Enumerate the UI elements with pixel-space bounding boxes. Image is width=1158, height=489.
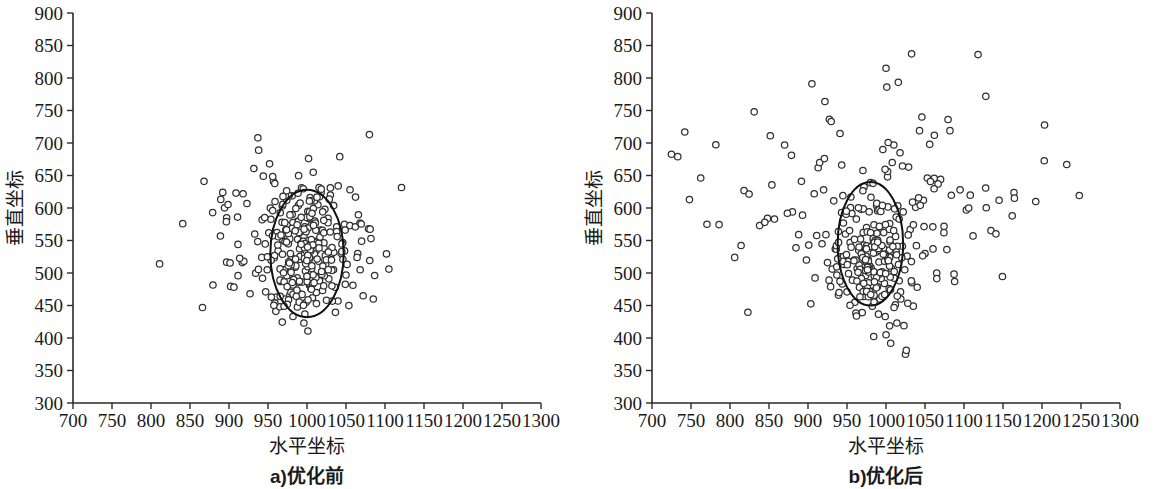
scatter-point	[837, 130, 843, 136]
y-tick-label: 450	[614, 295, 643, 316]
y-tick-label: 650	[614, 165, 643, 186]
scatter-point	[231, 284, 237, 290]
scatter-point	[799, 212, 805, 218]
scatter-point	[278, 232, 284, 238]
scatter-point	[771, 216, 777, 222]
scatter-point	[346, 302, 352, 308]
x-tick-label: 750	[677, 410, 706, 431]
x-tick-label: 700	[638, 410, 667, 431]
scatter-point	[1076, 192, 1082, 198]
scatter-point	[887, 340, 893, 346]
scatter-point	[893, 252, 899, 258]
scatter-point	[321, 217, 327, 223]
scatter-point	[866, 209, 872, 215]
scatter-point	[813, 232, 819, 238]
scatter-point	[808, 301, 814, 307]
scatter-point	[288, 269, 294, 275]
x-tick-label: 1300	[522, 410, 560, 431]
scatter-point	[983, 93, 989, 99]
scatter-point	[894, 293, 900, 299]
scatter-point	[355, 212, 361, 218]
scatter-point	[910, 222, 916, 228]
scatter-point	[874, 230, 880, 236]
scatter-point	[283, 188, 289, 194]
scatter-point	[251, 165, 257, 171]
scatter-point	[905, 300, 911, 306]
scatter-point	[304, 244, 310, 250]
scatter-point	[827, 283, 833, 289]
scatter-point	[944, 246, 950, 252]
y-axis-title: 垂直坐标	[584, 170, 605, 246]
scatter-point	[855, 269, 861, 275]
plot-area-b: 3003504004505005506006507007508008509007…	[579, 0, 1158, 489]
scatter-point	[882, 270, 888, 276]
scatter-point	[837, 278, 843, 284]
scatter-point	[861, 280, 867, 286]
x-tick-label: 1200	[1023, 410, 1061, 431]
scatter-point	[798, 178, 804, 184]
scatter-point	[880, 146, 886, 152]
scatter-point	[217, 233, 223, 239]
x-tick-label: 800	[137, 410, 166, 431]
scatter-point	[905, 164, 911, 170]
scatter-point	[894, 320, 900, 326]
scatter-point	[965, 205, 971, 211]
scatter-point	[209, 209, 215, 215]
scatter-point	[781, 142, 787, 148]
scatter-point	[915, 195, 921, 201]
scatter-point	[784, 210, 790, 216]
y-tick-label: 400	[35, 328, 64, 349]
scatter-point	[853, 313, 859, 319]
scatter-point	[370, 296, 376, 302]
scatter-point	[917, 202, 923, 208]
scatter-point	[240, 191, 246, 197]
scatter-point	[269, 207, 275, 213]
scatter-point	[903, 347, 909, 353]
scatter-point	[283, 239, 289, 245]
scatter-point	[321, 230, 327, 236]
scatter-point	[320, 209, 326, 215]
scatter-point	[843, 251, 849, 257]
scatter-point	[905, 232, 911, 238]
scatter-point	[882, 221, 888, 227]
y-tick-label: 700	[35, 133, 64, 154]
scatter-point	[371, 272, 377, 278]
scatter-point	[295, 172, 301, 178]
x-tick-label: 1050	[327, 410, 365, 431]
scatter-point	[901, 322, 907, 328]
scatter-point	[247, 291, 253, 297]
scatter-point	[275, 242, 281, 248]
x-tick-label: 850	[755, 410, 784, 431]
y-tick-label: 900	[35, 3, 64, 24]
y-tick-label: 350	[35, 360, 64, 381]
scatter-point	[327, 185, 333, 191]
scatter-point	[868, 291, 874, 297]
panel-caption: a)优化前	[270, 465, 344, 487]
scatter-point	[337, 153, 343, 159]
scatter-point	[318, 268, 324, 274]
scatter-point	[262, 241, 268, 247]
scatter-point	[895, 79, 901, 85]
scatter-point	[919, 253, 925, 259]
scatter-point	[902, 267, 908, 273]
y-tick-label: 500	[35, 263, 64, 284]
scatter-point	[824, 259, 830, 265]
scatter-point	[951, 271, 957, 277]
scatter-point	[857, 236, 863, 242]
scatter-point	[292, 228, 298, 234]
y-tick-label: 550	[35, 230, 64, 251]
scatter-point	[875, 311, 881, 317]
scatter-point	[856, 244, 862, 250]
scatter-point	[294, 287, 300, 293]
scatter-point	[868, 194, 874, 200]
scatter-point	[350, 282, 356, 288]
scatter-point	[304, 257, 310, 263]
y-tick-label: 550	[614, 230, 643, 251]
scatter-point	[831, 198, 837, 204]
scatter-point	[846, 227, 852, 233]
scatter-point	[871, 333, 877, 339]
scatter-point	[308, 286, 314, 292]
scatter-point	[941, 223, 947, 229]
x-tick-label: 700	[59, 410, 88, 431]
scatter-point	[314, 256, 320, 262]
